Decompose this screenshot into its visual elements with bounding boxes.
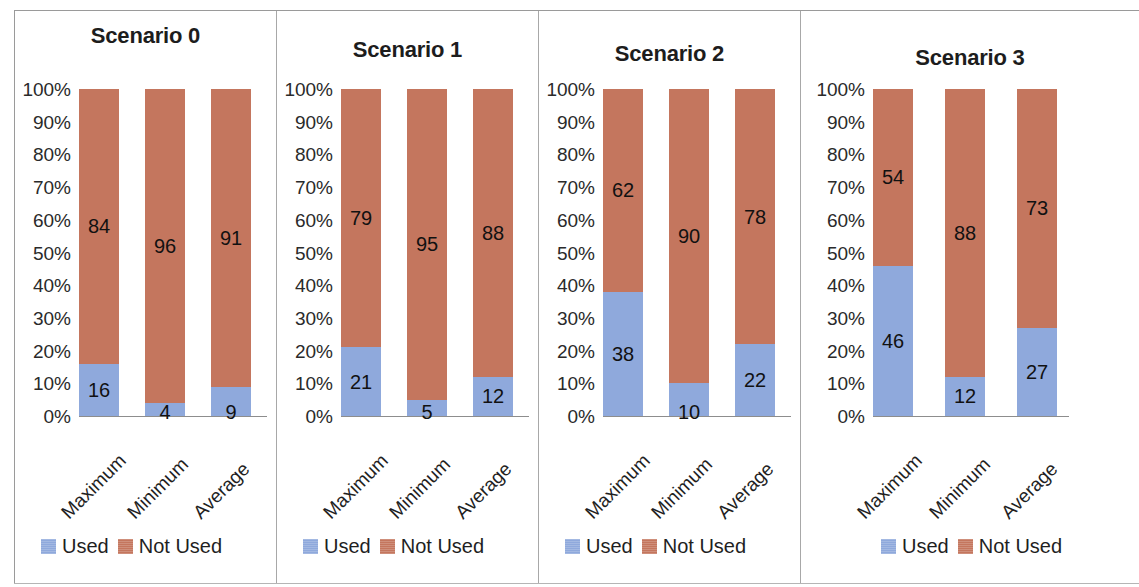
y-axis-tick-label: 10% xyxy=(557,374,595,393)
legend-swatch-not-used-icon xyxy=(958,539,973,554)
y-axis-tick-label: 60% xyxy=(295,210,333,229)
y-axis-tick-label: 10% xyxy=(33,374,71,393)
y-axis-tick-label: 70% xyxy=(557,178,595,197)
x-axis-category-label: Minimum xyxy=(123,454,193,524)
legend-label: Not Used xyxy=(663,535,746,558)
bar-group: 544688127327 xyxy=(873,89,1069,416)
bar-group: 79219558812 xyxy=(341,89,529,416)
bar-value-label-not-used: 88 xyxy=(954,221,976,244)
chart-panel-3: Scenario 3100%90%80%70%60%50%40%30%20%10… xyxy=(801,11,1139,583)
stacked-bar[interactable]: 6238 xyxy=(603,89,643,416)
y-axis-tick-label: 50% xyxy=(295,243,333,262)
bar-value-label-not-used: 78 xyxy=(744,205,766,228)
y-axis-tick-label: 60% xyxy=(557,210,595,229)
chart-legend: UsedNot Used xyxy=(303,535,484,558)
bar-value-label-not-used: 91 xyxy=(220,226,242,249)
y-axis-tick-label: 0% xyxy=(44,407,71,426)
y-axis-tick-label: 50% xyxy=(557,243,595,262)
x-axis-category-label: Average xyxy=(997,458,1062,523)
y-axis-tick-label: 0% xyxy=(306,407,333,426)
legend-swatch-used-icon xyxy=(565,539,580,554)
bar-value-label-used: 4 xyxy=(159,401,170,424)
stacked-bar[interactable]: 964 xyxy=(145,89,185,416)
y-axis-tick-label: 40% xyxy=(827,276,865,295)
legend-label: Not Used xyxy=(401,535,484,558)
y-axis-tick-label: 100% xyxy=(816,80,865,99)
stacked-bar[interactable]: 8812 xyxy=(473,89,513,416)
stacked-bar[interactable]: 7921 xyxy=(341,89,381,416)
plot-area: 100%90%80%70%60%50%40%30%20%10%0%8416964… xyxy=(17,89,267,416)
x-axis-category-label: Minimum xyxy=(925,454,995,524)
bar-value-label-not-used: 62 xyxy=(612,179,634,202)
y-axis-tick-label: 30% xyxy=(33,308,71,327)
bar-value-label-not-used: 54 xyxy=(882,166,904,189)
y-axis-tick-label: 70% xyxy=(827,178,865,197)
page-frame-bottom-rule xyxy=(14,583,1139,584)
x-axis-category-labels: MaximumMinimumAverage xyxy=(49,430,299,526)
y-axis-tick-label: 90% xyxy=(557,112,595,131)
stacked-bar[interactable]: 5446 xyxy=(873,89,913,416)
chart-panel-2: Scenario 2100%90%80%70%60%50%40%30%20%10… xyxy=(539,11,801,583)
legend-item-used[interactable]: Used xyxy=(41,535,109,558)
y-axis-tick-label: 10% xyxy=(827,374,865,393)
y-axis-tick-label: 30% xyxy=(295,308,333,327)
legend-label: Used xyxy=(902,535,949,558)
stacked-bar[interactable]: 9010 xyxy=(669,89,709,416)
y-axis-tick-label: 20% xyxy=(33,341,71,360)
legend-label: Used xyxy=(324,535,371,558)
bar-value-label-used: 46 xyxy=(882,329,904,352)
legend-swatch-not-used-icon xyxy=(118,539,133,554)
y-axis: 100%90%80%70%60%50%40%30%20%10%0% xyxy=(811,89,869,416)
y-axis-tick-label: 60% xyxy=(827,210,865,229)
legend-item-not-used[interactable]: Not Used xyxy=(380,535,484,558)
x-axis-category-label: Maximum xyxy=(853,450,927,524)
legend-item-not-used[interactable]: Not Used xyxy=(642,535,746,558)
legend-item-not-used[interactable]: Not Used xyxy=(118,535,222,558)
y-axis: 100%90%80%70%60%50%40%30%20%10%0% xyxy=(541,89,599,416)
legend-item-used[interactable]: Used xyxy=(881,535,949,558)
y-axis-tick-label: 80% xyxy=(827,145,865,164)
stacked-bar[interactable]: 7822 xyxy=(735,89,775,416)
legend-swatch-not-used-icon xyxy=(642,539,657,554)
chart-title: Scenario 2 xyxy=(539,41,800,67)
y-axis-tick-label: 70% xyxy=(295,178,333,197)
stacked-bar[interactable]: 955 xyxy=(407,89,447,416)
x-axis-category-label: Average xyxy=(713,458,778,523)
legend-item-used[interactable]: Used xyxy=(565,535,633,558)
legend-label: Used xyxy=(62,535,109,558)
chart-panel-0: Scenario 0100%90%80%70%60%50%40%30%20%10… xyxy=(15,11,277,583)
legend-swatch-used-icon xyxy=(303,539,318,554)
y-axis-tick-label: 30% xyxy=(827,308,865,327)
stacked-bar[interactable]: 8416 xyxy=(79,89,119,416)
y-axis-tick-label: 10% xyxy=(295,374,333,393)
bar-value-label-used: 22 xyxy=(744,369,766,392)
y-axis-tick-label: 70% xyxy=(33,178,71,197)
bar-value-label-used: 16 xyxy=(88,378,110,401)
stacked-bar[interactable]: 8812 xyxy=(945,89,985,416)
y-axis-tick-label: 20% xyxy=(557,341,595,360)
bar-value-label-used: 5 xyxy=(421,401,432,424)
chart-legend: UsedNot Used xyxy=(41,535,222,558)
y-axis-tick-label: 0% xyxy=(838,407,865,426)
x-axis-category-label: Minimum xyxy=(647,454,717,524)
chart-legend: UsedNot Used xyxy=(565,535,746,558)
y-axis-tick-label: 80% xyxy=(295,145,333,164)
bar-group: 8416964919 xyxy=(79,89,267,416)
x-axis-category-labels: MaximumMinimumAverage xyxy=(845,430,1103,526)
legend-swatch-used-icon xyxy=(41,539,56,554)
bar-value-label-used: 21 xyxy=(350,370,372,393)
bar-value-label-not-used: 88 xyxy=(482,221,504,244)
x-axis-category-labels: MaximumMinimumAverage xyxy=(573,430,823,526)
y-axis-tick-label: 100% xyxy=(22,80,71,99)
bar-value-label-used: 38 xyxy=(612,342,634,365)
stacked-bar[interactable]: 919 xyxy=(211,89,251,416)
x-axis-category-label: Average xyxy=(189,458,254,523)
legend-item-not-used[interactable]: Not Used xyxy=(958,535,1062,558)
chart-panel-row: Scenario 0100%90%80%70%60%50%40%30%20%10… xyxy=(15,11,1139,583)
stacked-bar[interactable]: 7327 xyxy=(1017,89,1057,416)
y-axis-tick-label: 50% xyxy=(33,243,71,262)
legend-item-used[interactable]: Used xyxy=(303,535,371,558)
y-axis-tick-label: 80% xyxy=(33,145,71,164)
y-axis: 100%90%80%70%60%50%40%30%20%10%0% xyxy=(279,89,337,416)
legend-swatch-not-used-icon xyxy=(380,539,395,554)
